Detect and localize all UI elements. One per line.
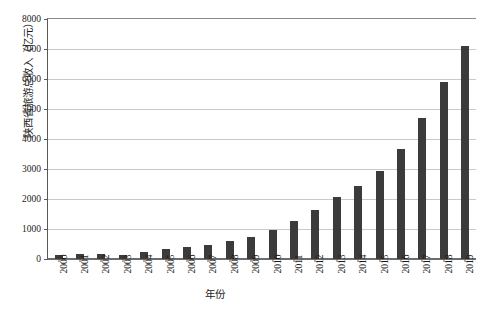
x-tick-label: 2006 [187,255,197,274]
x-tick-label: 2019 [465,255,475,274]
x-tick-label: 2014 [358,255,368,274]
bar-group: 2013 [326,19,347,259]
bar-group: 2017 [412,19,433,259]
bar [397,149,405,259]
x-tick-label: 2005 [166,255,176,274]
x-axis-title: 年份 [205,286,225,301]
bar [376,171,384,259]
bar-group: 2005 [155,19,176,259]
x-tick-label: 2017 [422,255,432,274]
bar-group: 2002 [91,19,112,259]
x-tick-label: 2012 [315,255,325,274]
x-tick-label: 2015 [380,255,390,274]
y-tick-label: 2000 [22,194,41,204]
x-tick-label: 2016 [401,255,411,274]
bar-group: 2010 [262,19,283,259]
bar-group: 2011 [283,19,304,259]
y-tick-label: 5000 [22,104,41,114]
x-tick-label: 2003 [123,255,133,274]
y-tick-label: 7000 [22,44,41,54]
bar-group: 2004 [134,19,155,259]
x-tick-label: 2004 [144,255,154,274]
bar-group: 2006 [176,19,197,259]
x-tick-label: 2002 [101,255,111,274]
y-tick-label: 3000 [22,164,41,174]
bars-group: 2000200120022003200420052006200720082009… [48,19,476,259]
bar [354,186,362,259]
x-tick-label: 2011 [294,255,304,274]
bar-group: 2018 [433,19,454,259]
bar-group: 2015 [369,19,390,259]
y-tick-label: 1000 [22,224,41,234]
bar [440,82,448,259]
y-tick-label: 0 [36,254,41,264]
bar-group: 2007 [198,19,219,259]
bar-group: 2000 [48,19,69,259]
x-tick-label: 2000 [59,255,69,274]
x-tick-label: 2010 [273,255,283,274]
x-tick-label: 2009 [251,255,261,274]
y-tick-mark [44,259,48,260]
bar-group: 2008 [219,19,240,259]
bar-group: 2014 [348,19,369,259]
x-tick-label: 2007 [208,255,218,274]
y-tick-label: 6000 [22,74,41,84]
bar-group: 2001 [69,19,90,259]
bar-group: 2019 [455,19,476,259]
bar [461,46,469,259]
y-tick-label: 4000 [22,134,41,144]
bar-group: 2012 [305,19,326,259]
chart-figure: 陕西省旅游总收入（亿元） 010002000300040005000600070… [0,0,482,314]
x-tick-label: 2018 [444,255,454,274]
bar [333,197,341,259]
bar [418,118,426,259]
x-tick-label: 2013 [337,255,347,274]
bar-group: 2009 [241,19,262,259]
bar [311,210,319,259]
bar-group: 2016 [390,19,411,259]
x-tick-label: 2001 [80,255,90,274]
x-tick-label: 2008 [230,255,240,274]
plot-area: 010002000300040005000600070008000 200020… [47,18,476,259]
y-tick-label: 8000 [22,14,41,24]
bar-group: 2003 [112,19,133,259]
bar [290,221,298,259]
